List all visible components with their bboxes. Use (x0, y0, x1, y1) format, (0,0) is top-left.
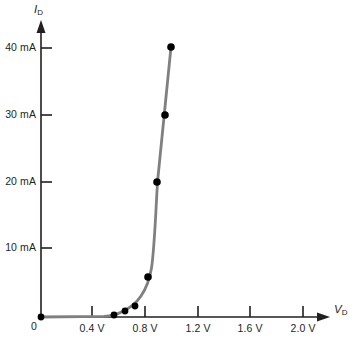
y-axis-title-subscript: D (37, 8, 43, 17)
x-axis-title: VD (334, 303, 347, 315)
data-point-markers (38, 43, 175, 320)
ytick-label-10ma: 10 mA (0, 241, 36, 253)
data-point (38, 314, 45, 321)
data-point (153, 178, 161, 186)
y-axis-title: ID (34, 3, 43, 15)
data-point (122, 308, 129, 315)
chart-canvas (0, 0, 358, 346)
xtick-label-1p2v: 1.2 V (176, 322, 220, 334)
xtick-label-1p6v: 1.6 V (228, 322, 272, 334)
x-axis-title-symbol: V (334, 303, 342, 315)
origin-label: 0 (31, 320, 37, 332)
xtick-label-2p0v: 2.0 V (281, 322, 325, 334)
data-point (167, 43, 175, 51)
data-point (161, 111, 169, 119)
ytick-label-30ma: 30 mA (0, 108, 36, 120)
ytick-label-20ma: 20 mA (0, 175, 36, 187)
data-point (111, 312, 118, 319)
x-axis-title-subscript: D (342, 308, 348, 317)
diode-iv-characteristic-figure: 10 mA 20 mA 30 mA 40 mA 0.4 V 0.8 V 1.2 … (0, 0, 358, 346)
data-point (132, 303, 139, 310)
ytick-label-40ma: 40 mA (0, 41, 36, 53)
y-axis-ticks (41, 48, 52, 248)
data-point (144, 273, 152, 281)
xtick-label-0p4v: 0.4 V (70, 322, 114, 334)
y-axis (37, 20, 46, 317)
xtick-label-0p8v: 0.8 V (123, 322, 167, 334)
